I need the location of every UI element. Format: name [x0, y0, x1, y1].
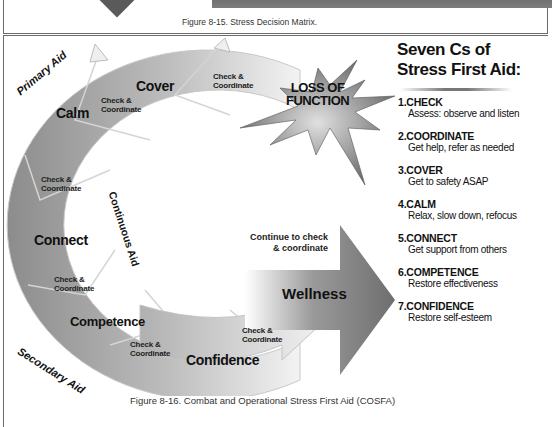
c-item-description: Restore effectiveness — [398, 278, 545, 290]
check-coordinate-label: Check & Coordinate — [41, 175, 81, 193]
cc-line2: Coordinate — [54, 284, 94, 293]
matrix-bar-shape — [212, 0, 552, 8]
stage-cover: Cover — [136, 78, 174, 94]
check-coordinate-label: Check & Coordinate — [54, 275, 94, 293]
c-item-heading: 5.CONNECT — [398, 232, 545, 244]
c-item-heading: 3.COVER — [398, 164, 545, 176]
stage-competence: Competence — [70, 314, 145, 329]
cc-line1: Check & — [130, 340, 170, 349]
c-item-check: 1.CHECK Assess: observe and listen — [398, 96, 545, 120]
check-coordinate-label: Check & Coordinate — [130, 340, 170, 358]
cc-line1: Check & — [101, 96, 141, 105]
c-item-description: Get to safety ASAP — [398, 176, 545, 188]
c-item-calm: 4.CALM Relax, slow down, refocus — [398, 198, 545, 222]
c-item-cover: 3.COVER Get to safety ASAP — [398, 164, 545, 188]
seven-cs-list: 1.CHECK Assess: observe and listen 2.COO… — [398, 96, 545, 334]
continue-line1: Continue to check — [250, 232, 328, 243]
check-coordinate-label: Check & Coordinate — [242, 326, 282, 344]
stage-calm: Calm — [56, 105, 89, 121]
c-item-description: Assess: observe and listen — [398, 108, 545, 120]
cc-line2: Coordinate — [41, 184, 81, 193]
loss-of-function-label: LOSS OF FUNCTION — [286, 81, 349, 107]
continue-line2: & coordinate — [250, 243, 328, 254]
loss-line2: FUNCTION — [286, 94, 349, 107]
top-figure-caption: Figure 8-15. Stress Decision Matrix. — [182, 17, 317, 27]
c-item-heading: 7.CONFIDENCE — [398, 300, 545, 312]
c-item-heading: 1.CHECK — [398, 96, 545, 108]
decision-diamond-shape — [92, 0, 143, 17]
cc-line1: Check & — [54, 275, 94, 284]
c-item-description: Get support from others — [398, 244, 545, 256]
c-item-heading: 6.COMPETENCE — [398, 266, 545, 278]
cc-line1: Check & — [242, 326, 282, 335]
seven-cs-title-line1: Seven Cs of — [397, 40, 521, 60]
c-item-connect: 5.CONNECT Get support from others — [398, 232, 545, 256]
c-item-competence: 6.COMPETENCE Restore effectiveness — [398, 266, 545, 290]
wellness-label: Wellness — [282, 285, 347, 302]
cc-line1: Check & — [41, 175, 81, 184]
c-item-description: Relax, slow down, refocus — [398, 210, 545, 222]
continue-check-label: Continue to check & coordinate — [250, 232, 328, 254]
check-coordinate-label: Check & Coordinate — [213, 72, 253, 90]
seven-cs-title-line2: Stress First Aid: — [397, 60, 521, 80]
cc-line2: Coordinate — [213, 81, 253, 90]
c-item-heading: 4.CALM — [398, 198, 545, 210]
cc-line1: Check & — [213, 72, 253, 81]
c-item-description: Get help, refer as needed — [398, 142, 545, 154]
c-item-confidence: 7.CONFIDENCE Restore self-esteem — [398, 300, 545, 324]
check-coordinate-label: Check & Coordinate — [101, 96, 141, 114]
c-item-heading: 2.COORDINATE — [398, 130, 545, 142]
title-divider — [400, 88, 512, 91]
cc-line2: Coordinate — [101, 105, 141, 114]
c-item-description: Restore self-esteem — [398, 312, 545, 324]
stage-connect: Connect — [34, 232, 88, 248]
cc-line2: Coordinate — [130, 349, 170, 358]
c-item-coordinate: 2.COORDINATE Get help, refer as needed — [398, 130, 545, 154]
bottom-figure-caption: Figure 8-16. Combat and Operational Stre… — [130, 395, 395, 406]
stage-confidence: Confidence — [186, 352, 259, 368]
cc-line2: Coordinate — [242, 335, 282, 344]
seven-cs-title: Seven Cs of Stress First Aid: — [397, 40, 521, 80]
